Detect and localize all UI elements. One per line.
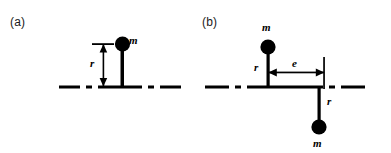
panel-a: (a) bbox=[0, 0, 196, 153]
dimension-arrow-r-a bbox=[100, 44, 108, 87]
radius-label-b-lower: r bbox=[327, 96, 331, 107]
mass-ball-b-lower bbox=[311, 119, 326, 134]
axis-centerline-b bbox=[205, 86, 365, 89]
mass-ball-a bbox=[115, 36, 130, 51]
rod-b-lower bbox=[318, 86, 321, 122]
mass-label-b-lower: m bbox=[313, 138, 322, 149]
panel-a-drawing bbox=[0, 0, 196, 153]
mass-ball-b-upper bbox=[260, 39, 275, 54]
rod-b-upper bbox=[267, 50, 270, 86]
rod-a bbox=[121, 47, 125, 86]
panel-b: (b) bbox=[196, 0, 391, 153]
axis-centerline-a bbox=[59, 86, 181, 89]
mass-label-a: m bbox=[129, 35, 138, 46]
panel-b-drawing bbox=[196, 0, 391, 153]
radius-label-b-upper: r bbox=[254, 62, 258, 73]
eccentricity-label-b: e bbox=[292, 58, 297, 69]
radius-label-a: r bbox=[90, 58, 94, 69]
physics-figure: (a) bbox=[0, 0, 391, 153]
mass-label-b-upper: m bbox=[262, 22, 271, 33]
dimension-arrow-e-b bbox=[268, 69, 324, 77]
